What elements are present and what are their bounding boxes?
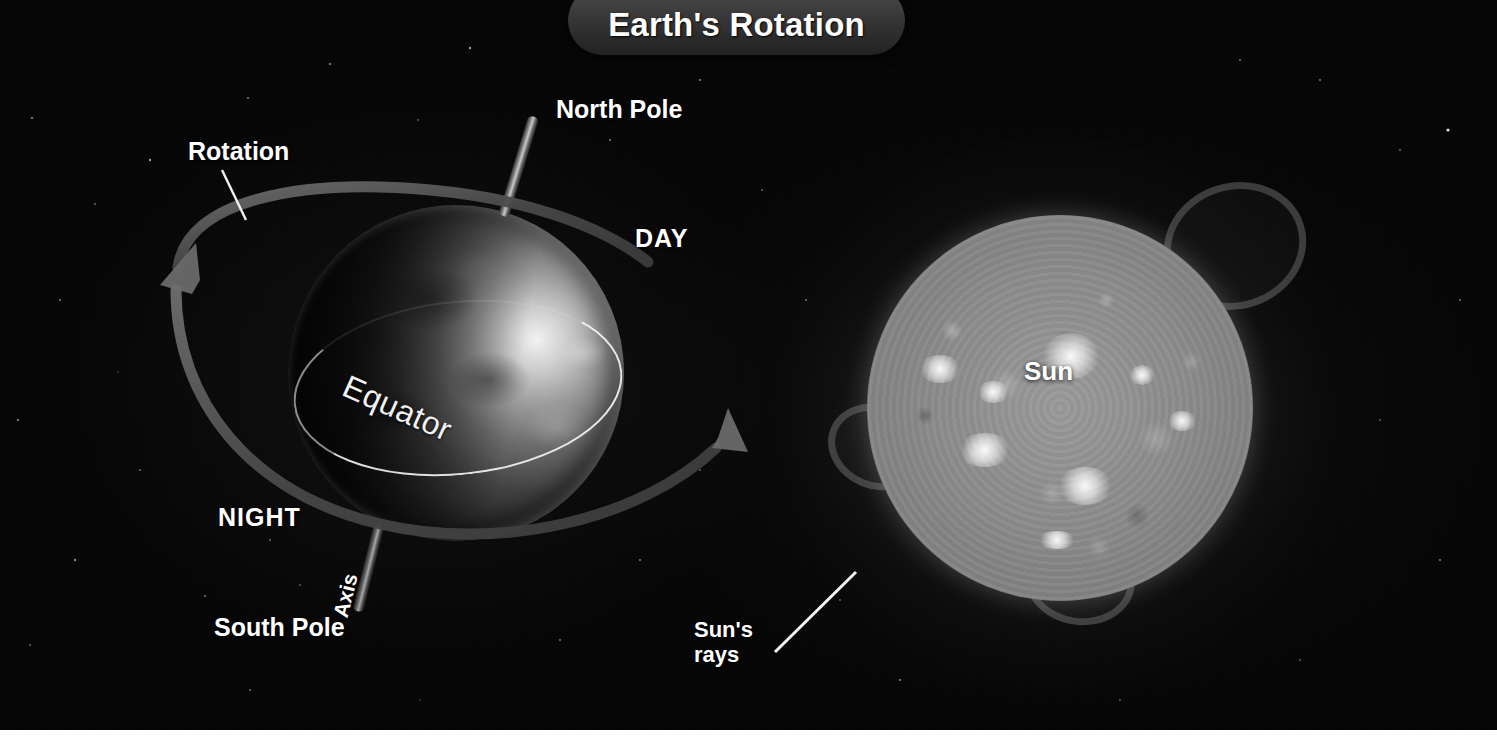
page-title: Earth's Rotation <box>568 6 905 44</box>
suns-rays-line-2: rays <box>694 642 739 667</box>
sun-disk <box>867 215 1253 601</box>
sun-graphic <box>845 205 1265 625</box>
rotation-label: Rotation <box>188 137 289 166</box>
suns-rays-line-1: Sun's <box>694 617 753 642</box>
south-pole-label: South Pole <box>214 613 345 642</box>
suns-rays-label: Sun'srays <box>694 617 753 667</box>
sun-flare-spot <box>919 355 961 383</box>
sun-flare-spot <box>1037 531 1077 549</box>
bottom-white-band <box>0 730 1497 756</box>
earth-globe <box>288 205 624 541</box>
night-label: NIGHT <box>218 503 301 532</box>
sun-flare-spot <box>959 433 1011 467</box>
sun-label: Sun <box>1024 356 1073 387</box>
earth-rotation-diagram: Equator <box>0 0 1497 756</box>
sun-flare-spot <box>977 381 1009 403</box>
sun-flare-spot <box>1057 467 1113 505</box>
sun-flare-spot <box>1129 365 1155 385</box>
sun-flare-spot <box>1167 411 1197 431</box>
north-pole-label: North Pole <box>556 95 682 124</box>
day-label: DAY <box>635 224 689 253</box>
